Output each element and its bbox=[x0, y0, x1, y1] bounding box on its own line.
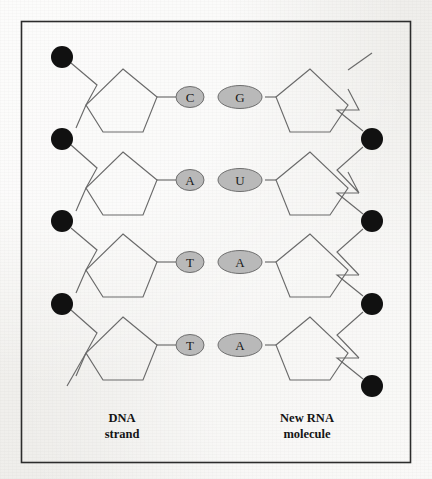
right-base-group: G U A A bbox=[218, 86, 262, 357]
left-phosphate-4 bbox=[51, 293, 73, 315]
right-phosphate-group bbox=[361, 128, 383, 397]
caption-group: DNA strand New RNA molecule bbox=[105, 411, 334, 441]
right-backbone-seg-1 bbox=[337, 89, 363, 131]
diagram-border-frame bbox=[22, 22, 411, 463]
right-backbone-seg-3 bbox=[337, 229, 363, 275]
left-phosphate-group bbox=[51, 46, 73, 315]
right-phosphate-3 bbox=[361, 293, 383, 315]
left-backbone-seg-2 bbox=[71, 145, 97, 211]
right-base-label-4: A bbox=[235, 338, 245, 353]
right-base-label-3: A bbox=[235, 255, 245, 270]
left-sugar-pentagon-4 bbox=[86, 317, 157, 380]
right-backbone-seg-2 bbox=[337, 147, 363, 193]
right-base-4[interactable]: A bbox=[218, 334, 262, 357]
left-sugar-pentagon-3 bbox=[86, 234, 157, 297]
dna-strand-caption-line2: strand bbox=[105, 427, 140, 441]
figure-root: C A T T G U bbox=[0, 0, 432, 479]
left-base-1[interactable]: C bbox=[176, 87, 204, 108]
left-phosphate-2 bbox=[51, 128, 73, 150]
left-base-bond-group bbox=[157, 97, 176, 345]
left-phosphate-1 bbox=[51, 46, 73, 68]
right-phosphate-1 bbox=[361, 128, 383, 150]
left-backbone-seg-1 bbox=[71, 63, 97, 128]
right-sugar-group bbox=[276, 69, 348, 380]
left-base-3[interactable]: T bbox=[176, 252, 204, 273]
left-base-label-4: T bbox=[186, 338, 194, 353]
right-base-label-1: G bbox=[235, 90, 244, 105]
right-backbone-seg-3b bbox=[337, 275, 363, 296]
right-phosphate-4 bbox=[361, 375, 383, 397]
right-strand-free-end-line bbox=[348, 53, 372, 70]
right-base-2[interactable]: U bbox=[218, 169, 262, 192]
right-sugar-pentagon-2 bbox=[276, 152, 348, 215]
left-base-group: C A T T bbox=[176, 87, 204, 356]
rna-molecule-caption-line2: molecule bbox=[283, 427, 331, 441]
left-base-label-1: C bbox=[186, 90, 195, 105]
right-sugar-pentagon-4 bbox=[276, 317, 348, 380]
dna-rna-transcription-diagram: C A T T G U bbox=[0, 0, 432, 479]
right-backbone-seg-4 bbox=[337, 312, 363, 358]
right-base-label-2: U bbox=[235, 173, 245, 188]
left-phosphate-3 bbox=[51, 210, 73, 232]
left-base-2[interactable]: A bbox=[176, 170, 204, 191]
right-base-1[interactable]: G bbox=[218, 86, 262, 109]
right-base-bond-group bbox=[265, 97, 276, 345]
dna-strand-caption-line1: DNA bbox=[108, 411, 135, 425]
left-base-label-3: T bbox=[186, 255, 194, 270]
right-backbone-seg-2b bbox=[337, 193, 363, 214]
left-sugar-pentagon-1 bbox=[86, 69, 157, 132]
left-sugar-pentagon-2 bbox=[86, 152, 157, 215]
right-backbone-seg-4b bbox=[337, 358, 363, 379]
left-strand-free-end-line bbox=[67, 353, 86, 386]
left-backbone-seg-3 bbox=[71, 228, 97, 293]
left-backbone-seg-4 bbox=[71, 310, 97, 376]
right-sugar-pentagon-1 bbox=[276, 69, 348, 132]
left-base-label-2: A bbox=[185, 173, 195, 188]
right-base-3[interactable]: A bbox=[218, 251, 262, 274]
left-base-4[interactable]: T bbox=[176, 335, 204, 356]
right-sugar-pentagon-3 bbox=[276, 234, 348, 297]
rna-molecule-caption-line1: New RNA bbox=[280, 411, 334, 425]
right-phosphate-2 bbox=[361, 210, 383, 232]
